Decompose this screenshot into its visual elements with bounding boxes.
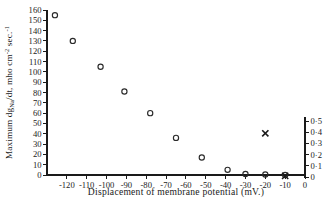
figure-container: 0102030405060708090100110120130140150160… [0,0,335,202]
data-point-circle-0-6 [199,155,204,160]
tick-labels-group: 0102030405060708090100110120130140150160… [29,5,323,190]
data-point-circle-0-3 [122,89,127,94]
y-tick-label-140: 140 [29,26,42,36]
ticks-group [43,10,309,179]
x-axis-title: Displacement of membrane potential (mV.) [88,186,264,198]
y-tick-label-100: 100 [29,67,42,77]
scatter-plot: 0102030405060708090100110120130140150160… [0,0,335,202]
y-tick-label-60: 60 [33,108,42,118]
y-tick-label-10: 10 [33,160,42,170]
y-tick-label-70: 70 [33,98,42,108]
y-tick-label-130: 130 [29,36,42,46]
data-point-circle-0-4 [148,111,153,116]
axis-titles-group: Displacement of membrane potential (mV.)… [3,26,264,198]
y2-tick-label-0p4: 0·4 [311,127,323,137]
y-tick-label-30: 30 [33,139,42,149]
x-tick-label--120: -120 [59,180,75,190]
x-tick-label--10: -10 [279,180,290,190]
data-point-circle-0-0 [52,13,57,18]
data-points-group [52,13,288,179]
y-tick-label-50: 50 [33,118,42,128]
data-point-circle-0-2 [98,64,103,69]
data-point-circle-0-7 [225,167,230,172]
y2-tick-label-0p5: 0·5 [311,116,322,126]
y-tick-label-120: 120 [29,46,42,56]
y-tick-label-150: 150 [29,15,42,25]
y-tick-label-40: 40 [33,129,42,139]
data-point-cross-1-0 [262,130,268,136]
y-tick-label-160: 160 [29,5,42,15]
y-tick-label-80: 80 [33,88,42,98]
y-tick-label-20: 20 [33,149,42,159]
data-point-circle-0-5 [173,135,178,140]
x-tick-label-0: 0 [303,180,307,190]
y-tick-label-110: 110 [29,57,42,67]
y2-tick-label-0p3: 0·3 [311,138,322,148]
axes-group [47,10,305,179]
y-tick-label-0: 0 [37,170,41,180]
y-tick-label-90: 90 [33,77,42,87]
y2-tick-label-0p2: 0·2 [311,150,322,160]
data-point-circle-0-1 [70,38,75,43]
y2-tick-label-0: 0 [311,172,315,182]
y2-tick-label-0p1: 0·1 [311,161,322,171]
y-axis-title: Maximum dgNa/dt, mho cm-2 sec.-1 [3,26,15,159]
